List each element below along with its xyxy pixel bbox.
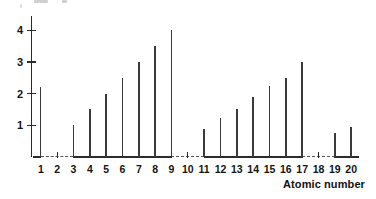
stem-bar-7 [138, 62, 139, 157]
x-tick-18 [318, 152, 319, 158]
x-tick-label-10: 10 [182, 164, 194, 175]
x-tick-label-14: 14 [247, 164, 259, 175]
y-tick-label-4: 4 [17, 25, 23, 36]
stem-bar-5 [105, 94, 106, 157]
stem-bar-1 [40, 87, 41, 157]
x-tick-label-15: 15 [264, 164, 276, 175]
x-tick-label-1: 1 [38, 164, 44, 175]
y-tick-2: 2 [27, 93, 36, 94]
y-tick-3: 3 [27, 61, 36, 62]
stem-plot-area: 1234 1234567891011121314151617181920 [0, 0, 376, 199]
x-tick-label-7: 7 [136, 164, 142, 175]
stem-bar-14 [252, 97, 253, 157]
stem-bar-20 [350, 127, 351, 157]
stem-bar-13 [236, 109, 237, 157]
x-axis-title: Atomic number [283, 178, 365, 190]
stem-bar-15 [269, 86, 270, 157]
x-tick-label-13: 13 [231, 164, 243, 175]
baseline-segment-solid-6 [335, 156, 359, 157]
y-axis-line [31, 16, 32, 157]
x-tick-label-20: 20 [345, 164, 357, 175]
y-tick-label-1: 1 [17, 120, 23, 131]
y-tick-label-3: 3 [17, 56, 23, 67]
y-tick-4: 4 [27, 30, 36, 31]
y-tick-label-2: 2 [17, 88, 23, 99]
x-tick-10 [187, 152, 188, 158]
x-tick-label-11: 11 [199, 164, 210, 175]
chart-root: 1234 1234567891011121314151617181920 Ato… [0, 0, 376, 199]
stem-bar-8 [154, 46, 155, 157]
y-tick-1: 1 [27, 125, 36, 126]
x-tick-label-19: 19 [329, 164, 341, 175]
x-tick-label-18: 18 [313, 164, 325, 175]
stem-bar-11 [203, 129, 204, 157]
stem-bar-12 [220, 118, 221, 157]
x-tick-2 [57, 152, 58, 158]
x-tick-label-2: 2 [54, 164, 60, 175]
x-tick-label-16: 16 [280, 164, 292, 175]
stem-bar-3 [73, 125, 74, 157]
x-tick-label-5: 5 [103, 164, 109, 175]
stem-bar-16 [285, 78, 286, 157]
stem-bar-9 [171, 30, 172, 157]
x-tick-label-4: 4 [87, 164, 93, 175]
x-tick-label-12: 12 [215, 164, 227, 175]
stem-bar-6 [122, 78, 123, 157]
x-tick-label-8: 8 [152, 164, 158, 175]
x-tick-label-9: 9 [169, 164, 175, 175]
stem-bar-19 [334, 133, 335, 157]
x-tick-label-17: 17 [296, 164, 308, 175]
x-tick-label-3: 3 [71, 164, 77, 175]
stem-bar-17 [301, 62, 302, 157]
x-tick-label-6: 6 [120, 164, 126, 175]
stem-bar-4 [89, 109, 90, 157]
